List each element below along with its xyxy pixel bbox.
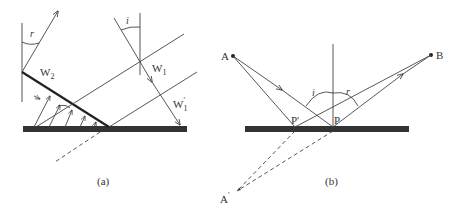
panel-a: r i W2 W1 W1' (a) bbox=[22, 11, 197, 188]
label-p: P bbox=[334, 114, 340, 126]
wavelet-arc bbox=[58, 105, 70, 108]
w2-label: W2 bbox=[40, 66, 54, 81]
w1-label: W1 bbox=[152, 62, 166, 77]
incident-ray-w1 bbox=[114, 18, 152, 82]
dashed-p-prime-to-a-image bbox=[237, 131, 295, 191]
angle-r-arc-a bbox=[22, 42, 39, 44]
w1-prime-label: W1' bbox=[173, 96, 187, 113]
angle-r-label-a: r bbox=[30, 28, 34, 39]
label-a-image: A' bbox=[220, 191, 230, 205]
ray-a-to-p-prime bbox=[233, 56, 295, 127]
panel-b: A B P' P i r A' (b) bbox=[220, 44, 443, 205]
angle-i-arc-b bbox=[306, 92, 333, 106]
wavelet-arrow-1 bbox=[34, 96, 50, 127]
reflected-ray-arrow bbox=[22, 11, 58, 72]
label-a: A bbox=[221, 50, 229, 62]
mirror-b bbox=[245, 126, 409, 132]
wavelet-arrow-6 bbox=[34, 96, 40, 99]
caption-a: (a) bbox=[97, 175, 110, 188]
mirror-a bbox=[23, 126, 187, 132]
ray-p-to-b-arrow bbox=[333, 74, 403, 127]
wavelet-arrow-4 bbox=[80, 116, 85, 127]
angle-r-label-b: r bbox=[346, 86, 350, 97]
wavelet-arrow-2 bbox=[49, 105, 60, 127]
dashed-p-to-a-image bbox=[237, 131, 333, 191]
wavelet-arrow-3 bbox=[65, 110, 72, 127]
label-p-prime: P' bbox=[291, 114, 299, 126]
label-b: B bbox=[436, 49, 443, 61]
dashed-extension-a bbox=[55, 132, 100, 162]
wavefront-w2 bbox=[22, 72, 109, 127]
angle-i-label-b: i bbox=[312, 87, 315, 98]
ray-p-to-b bbox=[403, 55, 431, 74]
reflection-diagram: r i W2 W1 W1' (a) A B bbox=[0, 0, 465, 214]
caption-b: (b) bbox=[325, 175, 338, 188]
ray-p-prime-to-b bbox=[295, 55, 431, 127]
incident-ray-line-1 bbox=[36, 34, 184, 127]
angle-i-arc-a bbox=[121, 27, 140, 30]
ray-a-to-p-arrow bbox=[233, 56, 282, 90]
angle-i-label-a: i bbox=[126, 15, 129, 26]
